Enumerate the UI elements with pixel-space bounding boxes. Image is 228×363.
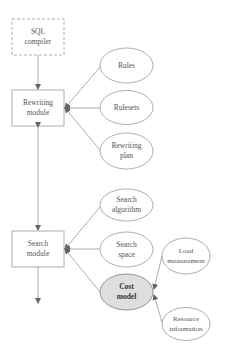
search-algorithm-label: Search algorithm [100,189,153,221]
edge-plan-to-rewriting [65,108,100,150]
edge-load-to-cost [154,256,162,289]
resource-information-label: Resource information [162,307,210,341]
rules-label: Rules [100,48,153,83]
edge-rules-to-rewriting [65,67,100,108]
cost-model-label: Cost model [100,274,153,310]
search-module-label: Search module [12,231,64,267]
edge-cost-to-search [65,249,100,292]
load-measurement-label: Load measurement [162,238,210,274]
edge-algorithm-to-search [65,207,100,249]
sql-compiler-label: SQL compiler [12,19,64,55]
rewriting-module-label: Rewriting module [12,90,64,126]
rewriting-plan-label: Rewriting plan [100,133,153,169]
rulesets-label: Rulesets [100,90,153,125]
edge-resource-to-cost [154,295,162,322]
search-space-label: Search space [100,232,153,267]
